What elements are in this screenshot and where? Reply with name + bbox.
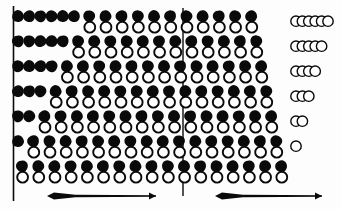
- open-circle: [229, 97, 240, 108]
- open-circle: [28, 147, 39, 158]
- open-circle: [89, 47, 100, 58]
- figure-canvas: [0, 0, 341, 209]
- open-circle-cluster: [291, 141, 301, 151]
- open-circle: [219, 47, 230, 58]
- open-circle: [17, 172, 28, 183]
- open-circle: [78, 72, 89, 83]
- open-circle: [266, 122, 277, 133]
- open-circle: [240, 72, 251, 83]
- open-circle: [195, 172, 206, 183]
- open-circle: [245, 97, 256, 108]
- open-circle: [40, 122, 51, 133]
- open-circle: [148, 97, 159, 108]
- open-circle: [190, 147, 201, 158]
- open-circle: [138, 47, 149, 58]
- open-circle: [72, 122, 83, 133]
- open-circle: [187, 47, 198, 58]
- open-circle: [56, 122, 67, 133]
- open-circle: [98, 172, 109, 183]
- open-circle: [251, 47, 262, 58]
- cluster-open-circle: [304, 91, 314, 101]
- cluster-open-circle: [310, 66, 320, 76]
- open-circle: [154, 47, 165, 58]
- open-circle: [83, 97, 94, 108]
- open-circle: [33, 172, 44, 183]
- open-circle: [175, 72, 186, 83]
- open-circle: [126, 147, 137, 158]
- open-circle: [271, 147, 282, 158]
- open-circle: [153, 122, 164, 133]
- open-circle: [164, 97, 175, 108]
- open-circle: [143, 72, 154, 83]
- open-circle: [198, 22, 209, 33]
- open-circle: [218, 122, 229, 133]
- open-circle: [101, 22, 112, 33]
- open-circle: [62, 72, 73, 83]
- open-circle: [149, 22, 160, 33]
- open-circle: [73, 47, 84, 58]
- open-circle: [202, 122, 213, 133]
- open-circle: [133, 22, 144, 33]
- open-circle: [131, 172, 142, 183]
- open-circle: [163, 172, 174, 183]
- cluster-open-circle: [316, 41, 326, 51]
- open-circle: [185, 122, 196, 133]
- open-circle: [104, 122, 115, 133]
- open-circle: [121, 122, 132, 133]
- open-circle: [250, 122, 261, 133]
- open-circle: [179, 172, 190, 183]
- open-circle: [142, 147, 153, 158]
- open-circle: [45, 147, 56, 158]
- open-circle-cluster: [291, 16, 333, 26]
- open-circle: [208, 72, 219, 83]
- open-circle: [276, 172, 287, 183]
- open-circle: [116, 97, 127, 108]
- open-circle: [169, 122, 180, 133]
- open-circle: [261, 97, 272, 108]
- open-circle: [165, 22, 176, 33]
- open-circle: [158, 147, 169, 158]
- open-circle: [260, 172, 271, 183]
- open-circle: [93, 147, 104, 158]
- open-circle: [230, 22, 241, 33]
- open-circle: [117, 22, 128, 33]
- open-circle: [111, 72, 122, 83]
- open-circle: [51, 97, 62, 108]
- open-circle-cluster: [291, 66, 321, 76]
- open-circle: [235, 47, 246, 58]
- cluster-open-circle: [323, 16, 333, 26]
- open-circle: [114, 172, 125, 183]
- open-circle: [109, 147, 120, 158]
- open-circle: [214, 22, 225, 33]
- diagram-svg: [0, 0, 341, 209]
- open-circle: [174, 147, 185, 158]
- open-circle: [212, 172, 223, 183]
- open-circle: [66, 172, 77, 183]
- open-circle: [159, 72, 170, 83]
- open-circle: [122, 47, 133, 58]
- open-circle-cluster: [291, 116, 308, 126]
- open-circle: [197, 97, 208, 108]
- cluster-open-circle: [291, 141, 301, 151]
- open-circle: [77, 147, 88, 158]
- open-circle: [127, 72, 138, 83]
- open-circle: [50, 172, 61, 183]
- open-circle-cluster: [291, 41, 327, 51]
- open-circle: [239, 147, 250, 158]
- open-circle: [84, 22, 95, 33]
- open-circle: [256, 72, 267, 83]
- open-circle: [132, 97, 143, 108]
- open-circle: [106, 47, 117, 58]
- open-circle: [180, 97, 191, 108]
- open-circle: [228, 172, 239, 183]
- open-circle: [246, 22, 257, 33]
- open-circle: [207, 147, 218, 158]
- cluster-open-circle: [297, 116, 307, 126]
- diagram-row: [16, 160, 287, 182]
- open-circle: [99, 97, 110, 108]
- open-circle: [94, 72, 105, 83]
- open-circle: [182, 22, 193, 33]
- open-circle: [203, 47, 214, 58]
- open-circle: [170, 47, 181, 58]
- open-circle: [67, 97, 78, 108]
